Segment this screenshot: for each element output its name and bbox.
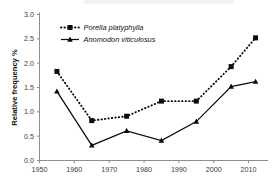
data-point-marker [54, 69, 59, 74]
data-point-marker [54, 88, 60, 93]
y-tick-label: 1.0 [24, 107, 34, 116]
data-point-marker [124, 114, 129, 119]
y-axis-title: Relative frequency % [10, 49, 19, 126]
chart-legend: Porella platyphyllaAnomodon viticulosus [61, 23, 156, 44]
x-tick-label: 1950 [32, 165, 48, 174]
x-tick-label: 2010 [241, 165, 257, 174]
data-point-marker [229, 64, 234, 69]
series-1 [54, 35, 258, 123]
chart-figure: 0.00.51.01.52.02.53.0 195019601970198019… [0, 0, 272, 193]
y-tick-label: 0.5 [24, 132, 34, 141]
y-tick-label: 2.5 [24, 34, 34, 43]
legend-marker-swatch [68, 25, 73, 30]
x-tick-label: 1980 [136, 165, 152, 174]
data-point-marker [124, 128, 130, 133]
data-point-marker [194, 99, 199, 104]
line-chart: 0.00.51.01.52.02.53.0 195019601970198019… [0, 0, 272, 193]
y-tick-label: 1.5 [24, 83, 34, 92]
legend-label: Porella platyphylla [84, 23, 144, 32]
legend-label: Anomodon viticulosus [83, 35, 156, 44]
x-tick-label-group: 1950196019701980199020002010 [32, 165, 257, 174]
x-tick-label: 1960 [66, 165, 82, 174]
legend-item-2: Anomodon viticulosus [61, 35, 156, 44]
y-tick-label-group: 0.00.51.01.52.02.53.0 [24, 10, 34, 165]
x-tick-label: 1990 [171, 165, 187, 174]
data-point-marker [253, 35, 258, 40]
data-point-marker [89, 118, 94, 123]
x-tick-label: 1970 [101, 165, 117, 174]
x-tick-label: 2000 [206, 165, 222, 174]
series-line [57, 38, 256, 121]
data-point-marker [253, 79, 259, 84]
y-tick-label: 3.0 [24, 10, 34, 19]
series-2 [54, 79, 258, 148]
data-point-marker [159, 99, 164, 104]
y-tick-label: 2.0 [24, 59, 34, 68]
legend-item-1: Porella platyphylla [61, 23, 143, 32]
y-axis-title-group: Relative frequency % [10, 49, 19, 126]
data-series-group [54, 35, 258, 147]
